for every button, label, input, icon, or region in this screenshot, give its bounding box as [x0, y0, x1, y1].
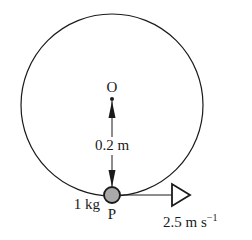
velocity-label: 2.5 m s−1 — [163, 212, 217, 230]
mass-label: 1 kg — [74, 196, 101, 212]
center-point — [110, 97, 114, 101]
velocity-label-exponent: −1 — [207, 212, 218, 223]
particle-label: P — [108, 206, 116, 222]
velocity-arrowhead-icon — [172, 184, 190, 206]
arrowhead-up-icon — [109, 101, 116, 118]
arrowhead-down-icon — [109, 170, 116, 187]
particle — [104, 187, 120, 203]
circular-motion-diagram: O 0.2 m 1 kg P 2.5 m s−1 — [0, 0, 252, 240]
velocity-label-main: 2.5 m s — [163, 214, 207, 230]
radius-label: 0.2 m — [95, 137, 130, 153]
center-label: O — [107, 79, 118, 95]
